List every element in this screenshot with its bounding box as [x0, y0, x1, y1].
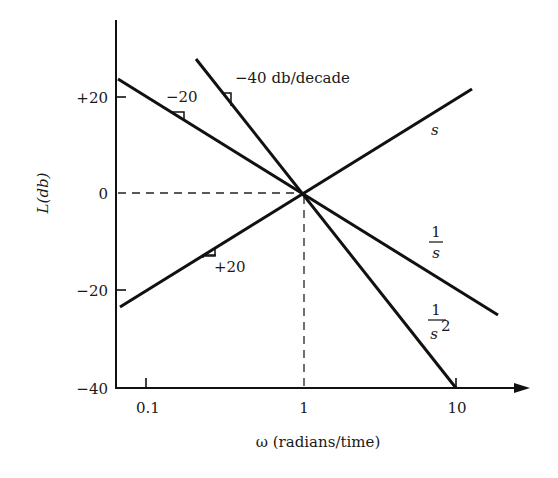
curve-label-s: s [431, 121, 439, 139]
line-s [120, 89, 472, 307]
y-tick-label-m20: −20 [76, 282, 108, 300]
curve-label-1s2-den: s [430, 325, 438, 343]
y-tick-label-0: 0 [98, 185, 108, 203]
y-axis-title: L(db) [34, 172, 52, 214]
curve-label-1s-num: 1 [431, 223, 441, 241]
y-tick-label-m40: −40 [76, 380, 108, 398]
slope-label-m40: −40 db/decade [235, 69, 350, 87]
curve-label-1s-den: s [432, 244, 440, 262]
x-tick-label-0.1: 0.1 [136, 399, 160, 417]
x-axis-arrow-icon [514, 383, 530, 393]
line-1-over-s-squared [196, 59, 456, 388]
slope-label-m20: −20 [166, 88, 198, 106]
bode-plot: +20 0 −20 −40 0.1 1 10 ω (radians/time) … [0, 0, 558, 478]
y-tick-label-p20: +20 [76, 89, 108, 107]
curve-label-1s2-exp: 2 [441, 317, 451, 335]
curve-label-1s2-num: 1 [431, 301, 441, 319]
slope-label-p20: +20 [214, 258, 246, 276]
x-tick-label-1: 1 [299, 399, 309, 417]
line-1-over-s [118, 79, 498, 315]
x-tick-label-10: 10 [447, 399, 466, 417]
x-axis-title: ω (radians/time) [256, 433, 381, 451]
